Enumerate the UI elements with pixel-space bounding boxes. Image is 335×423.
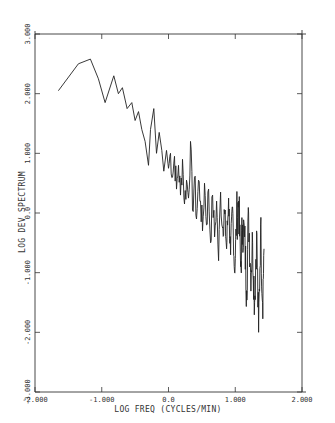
x-tick-label: 0.0 <box>162 396 175 404</box>
spectrum-chart: -2.000-1.0000.01.0002.000-3.000-2.000-1.… <box>0 0 335 423</box>
y-tick-label: -2.000 <box>24 320 32 345</box>
spectrum-line <box>58 59 264 332</box>
y-tick-label: -1.000 <box>24 260 32 285</box>
x-axis-label: LOG FREQ (CYCLES/MIN) <box>114 405 221 414</box>
y-tick-label: 2.000 <box>24 83 32 104</box>
ticks <box>35 34 302 392</box>
y-tick-label: -3.000 <box>24 379 32 404</box>
x-tick-label: -1.000 <box>89 396 114 404</box>
x-tick-label: 2.000 <box>291 396 312 404</box>
y-tick-label: 3.000 <box>24 23 32 44</box>
axes <box>35 30 306 392</box>
y-axis-label: LOG DEV SPECTRUM <box>18 171 27 253</box>
y-tick-label: 1.000 <box>24 143 32 164</box>
x-tick-label: 1.000 <box>225 396 246 404</box>
